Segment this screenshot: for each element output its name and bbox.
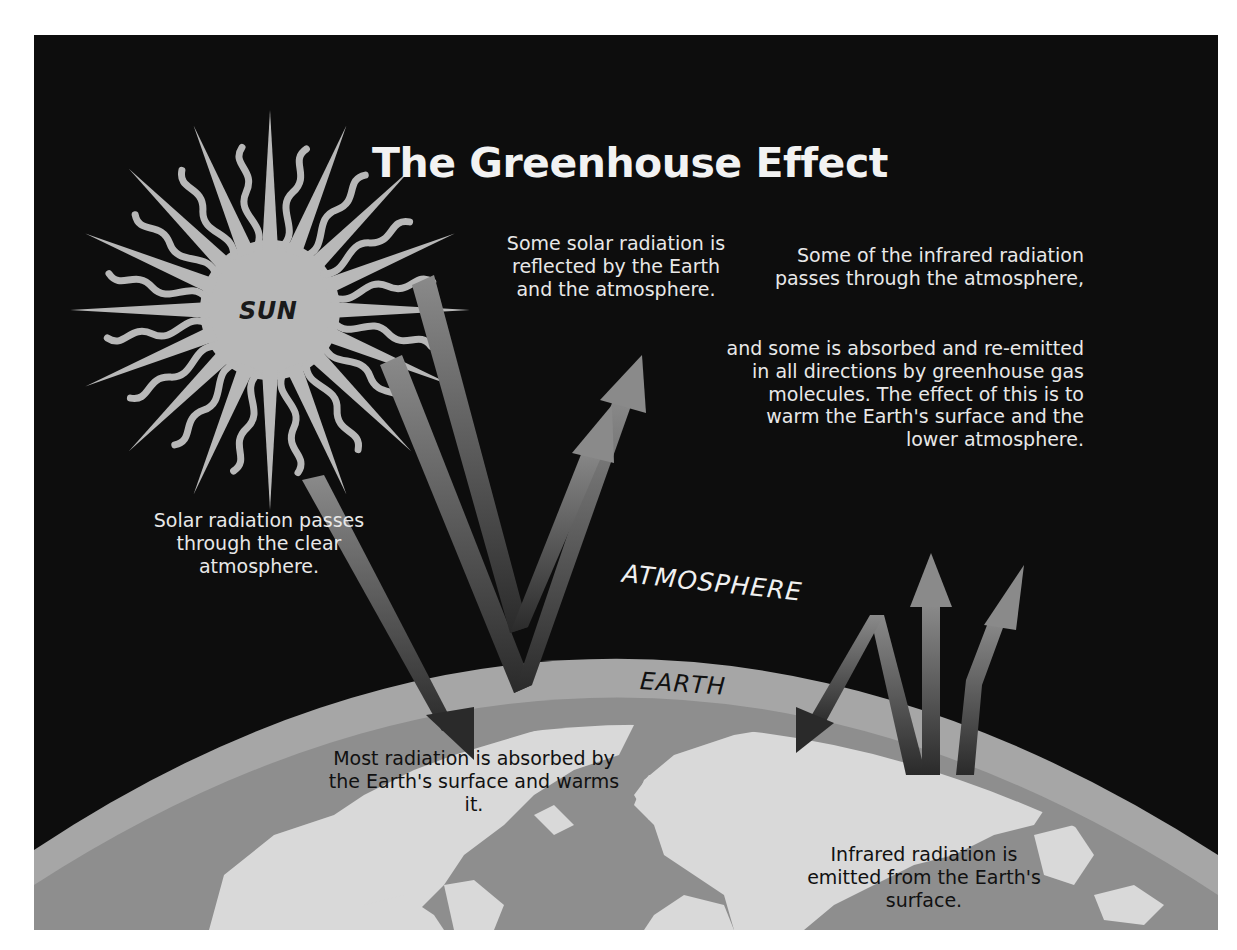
caption-solar-passes: Solar radiation passes through the clear… <box>139 509 379 577</box>
caption-absorbed-surface: Most radiation is absorbed by the Earth'… <box>324 747 624 815</box>
earth-label: EARTH <box>639 667 727 702</box>
reflected-arrow-inner <box>412 275 614 633</box>
diagram-frame: The Greenhouse Effect SUN Some solar rad… <box>34 35 1218 930</box>
reflected-arrow-outer <box>380 355 646 693</box>
sun-label: SUN <box>239 297 297 326</box>
caption-ir-passes: Some of the infrared radiation passes th… <box>754 244 1084 290</box>
caption-reflected: Some solar radiation is reflected by the… <box>496 232 736 300</box>
caption-ir-emitted: Infrared radiation is emitted from the E… <box>794 843 1054 911</box>
caption-ir-absorbed: and some is absorbed and re-emitted in a… <box>724 337 1084 451</box>
diagram-title: The Greenhouse Effect <box>372 139 888 188</box>
